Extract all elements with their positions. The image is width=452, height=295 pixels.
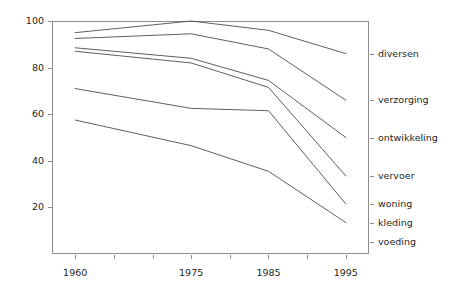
- series-label-verzorging: verzorging: [378, 95, 429, 105]
- line-chart: 10080604020 1960197519851995 diversenver…: [0, 0, 452, 295]
- x-tick-mark-1995: [346, 255, 347, 259]
- y-tick-mark-100: [48, 21, 52, 22]
- series-label-vervoer: vervoer: [378, 171, 415, 181]
- series-label-ontwikkeling: ontwikkeling: [378, 133, 438, 143]
- series-lines-group: [0, 0, 452, 295]
- y-tick-label-100: 100: [8, 16, 44, 26]
- series-line-vervoer: [75, 51, 346, 176]
- right-tick-mark-kleding: [370, 223, 374, 224]
- series-line-kleding: [75, 120, 346, 223]
- x-tick-mark-1980: [230, 255, 231, 259]
- series-label-diversen: diversen: [378, 49, 419, 59]
- x-tick-mark-1960: [75, 255, 76, 259]
- x-tick-mark-1965: [114, 255, 115, 259]
- x-tick-mark-1975: [191, 255, 192, 259]
- right-tick-mark-woning: [370, 204, 374, 205]
- right-tick-mark-diversen: [370, 54, 374, 55]
- x-tick-label-1960: 1960: [50, 268, 100, 278]
- y-tick-mark-20: [48, 207, 52, 208]
- x-tick-label-1975: 1975: [166, 268, 216, 278]
- y-tick-label-80: 80: [8, 63, 44, 73]
- y-tick-mark-80: [48, 68, 52, 69]
- series-line-verzorging: [75, 34, 346, 100]
- series-label-woning: woning: [378, 199, 412, 209]
- series-line-ontwikkeling: [75, 48, 346, 138]
- x-tick-mark-1990: [307, 255, 308, 259]
- y-tick-label-40: 40: [8, 156, 44, 166]
- right-tick-mark-ontwikkeling: [370, 138, 374, 139]
- right-tick-mark-verzorging: [370, 100, 374, 101]
- right-tick-mark-vervoer: [370, 176, 374, 177]
- x-tick-label-1985: 1985: [243, 268, 293, 278]
- series-label-voeding: voeding: [378, 237, 416, 247]
- x-tick-label-1995: 1995: [321, 268, 371, 278]
- y-tick-mark-40: [48, 161, 52, 162]
- right-tick-mark-voeding: [370, 242, 374, 243]
- y-tick-label-20: 20: [8, 202, 44, 212]
- y-tick-label-60: 60: [8, 109, 44, 119]
- series-line-woning: [75, 89, 346, 204]
- x-tick-mark-1985: [268, 255, 269, 259]
- y-tick-mark-60: [48, 114, 52, 115]
- x-tick-mark-1970: [153, 255, 154, 259]
- series-label-kleding: kleding: [378, 218, 413, 228]
